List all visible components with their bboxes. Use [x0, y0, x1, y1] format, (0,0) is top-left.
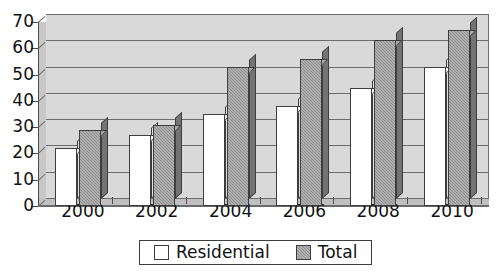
y-axis-tick-label: 30 [0, 118, 34, 135]
y-axis-tick-label: 40 [0, 92, 34, 109]
y-axis-tick-label: 50 [0, 66, 34, 83]
bar-total-2000 [79, 130, 101, 206]
bar-side-face [101, 116, 108, 199]
bar-front-face [79, 130, 101, 206]
y-axis-tick-label: 60 [0, 39, 34, 56]
bar-residential-2006 [276, 106, 298, 206]
bar-front-face [203, 114, 225, 206]
bar-front-face [129, 135, 151, 206]
plot-area: 706050403020100 200020022004200620082010 [0, 0, 503, 228]
bar-side-face [322, 45, 329, 198]
bar-front-face [350, 88, 372, 206]
bar-front-face [227, 67, 249, 206]
bar-chart: 706050403020100 200020022004200620082010… [0, 0, 503, 274]
gridline [46, 172, 489, 173]
gridline [46, 67, 489, 68]
bar-side-face [249, 53, 256, 199]
bar-front-face [374, 40, 396, 206]
legend-item-residential: Residential [154, 244, 270, 261]
bar-residential-2004 [203, 114, 225, 206]
gridline [46, 40, 489, 41]
bar-total-2010 [448, 30, 470, 206]
bar-residential-2002 [129, 135, 151, 206]
plot-back-wall [46, 14, 489, 198]
gridline [46, 93, 489, 94]
bar-residential-2010 [424, 67, 446, 206]
bar-total-2004 [227, 67, 249, 206]
bar-residential-2008 [350, 88, 372, 206]
y-axis-tick-label: 20 [0, 144, 34, 161]
x-axis-tick [38, 197, 39, 204]
bar-front-face [276, 106, 298, 206]
y-axis-tick-label: 70 [0, 13, 34, 30]
bar-total-2002 [153, 125, 175, 206]
bar-front-face [424, 67, 446, 206]
bar-front-face [448, 30, 470, 206]
bar-total-2006 [300, 59, 322, 206]
open-square-swatch-icon [154, 245, 169, 260]
legend-item-total: Total [296, 244, 358, 261]
gridline [46, 14, 489, 15]
bar-total-2008 [374, 40, 396, 206]
bar-side-face [470, 17, 477, 199]
bar-residential-2000 [55, 148, 77, 206]
bar-front-face [300, 59, 322, 206]
chart-legend: Residential Total [139, 240, 372, 265]
filled-square-swatch-icon [296, 245, 311, 260]
gridline [46, 119, 489, 120]
gridline [46, 145, 489, 146]
bar-front-face [153, 125, 175, 206]
legend-label-residential: Residential [176, 244, 270, 261]
bar-front-face [55, 148, 77, 206]
bar-side-face [396, 27, 403, 199]
y-axis-tick-label: 10 [0, 171, 34, 188]
legend-label-total: Total [318, 244, 358, 261]
y-axis-tick-label: 0 [0, 197, 34, 214]
